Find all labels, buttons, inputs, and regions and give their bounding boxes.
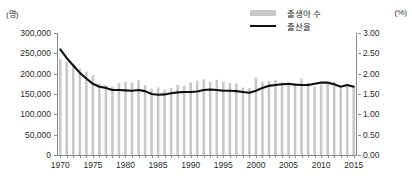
x-axis-tickmark (112, 155, 113, 158)
right-axis-tickmark (358, 135, 361, 136)
bar (118, 83, 121, 155)
x-axis-tickmark (99, 155, 100, 158)
x-axis-tickmark (328, 155, 329, 158)
x-axis-tickmark (184, 155, 185, 158)
x-axis-tickmark (171, 155, 172, 158)
x-axis-tickmark (302, 155, 303, 158)
x-axis-tickmark (165, 155, 166, 158)
x-axis-tickmark (145, 155, 146, 158)
bar (352, 86, 355, 155)
bar (170, 88, 173, 155)
bar (242, 87, 245, 155)
right-axis-tickmark (358, 94, 361, 95)
x-axis-tickmark (223, 155, 224, 158)
x-axis-tickmark (249, 155, 250, 158)
right-axis-tickmark (358, 155, 361, 156)
bar (300, 79, 303, 155)
x-axis-tickmark (152, 155, 153, 158)
line-series-fertility-rate (60, 49, 353, 95)
x-axis-tickmark (341, 155, 342, 158)
legend-item-fertility-rate: 출산율 (250, 19, 370, 32)
x-axis-tickmark (80, 155, 81, 158)
bar (294, 83, 297, 155)
x-axis-tickmark (191, 155, 192, 158)
bar (287, 85, 290, 155)
left-axis-tick: 100,000 (20, 109, 51, 119)
right-axis-tick: 0.00 (363, 150, 380, 160)
right-axis-tickmark (358, 33, 361, 34)
chart-container: (명) (%) 출생아 수 출산율 300,000250,000200,0001… (0, 0, 412, 190)
bar (222, 82, 225, 155)
left-axis-tick: 200,000 (20, 69, 51, 79)
bar (85, 72, 88, 155)
plot-svg (57, 33, 357, 155)
legend-label-fertility-rate: 출산율 (287, 20, 311, 32)
x-axis-tickmark (230, 155, 231, 158)
x-axis-tickmark (236, 155, 237, 158)
left-axis-tick: 150,000 (20, 89, 51, 99)
legend-line-swatch-icon (250, 25, 276, 27)
x-axis-tickmark (178, 155, 179, 158)
x-axis-tickmark (210, 155, 211, 158)
bar (209, 82, 212, 155)
bar (248, 88, 251, 155)
left-axis-tick: 50,000 (25, 130, 51, 140)
bar (333, 82, 336, 155)
bar (137, 80, 140, 155)
bar (183, 86, 186, 155)
right-axis-tick: 1.50 (363, 89, 380, 99)
x-axis-tickmark (354, 155, 355, 158)
bar (157, 87, 160, 155)
chart-legend: 출생아 수 출산율 (250, 6, 370, 32)
bar (268, 81, 271, 155)
x-axis-tickmark (73, 155, 74, 158)
x-axis-tickmark (334, 155, 335, 158)
bar (339, 88, 342, 155)
x-axis-tick: 1975 (83, 160, 102, 170)
x-axis-tickmark (275, 155, 276, 158)
bar (235, 83, 238, 155)
x-axis-tickmark (197, 155, 198, 158)
right-axis-tick: 0.50 (363, 130, 380, 140)
bar (79, 69, 82, 155)
bar (281, 82, 284, 155)
x-axis-tickmark (158, 155, 159, 158)
x-axis-line (57, 155, 357, 156)
x-axis-tickmark (256, 155, 257, 158)
bar (59, 59, 62, 155)
right-axis-tick: 1.00 (363, 109, 380, 119)
x-axis-tickmark (289, 155, 290, 158)
bar (131, 83, 134, 155)
left-axis-tick: 300,000 (20, 28, 51, 38)
right-axis-tickmark (358, 53, 361, 54)
x-axis-tickmark (67, 155, 68, 158)
bar (261, 82, 264, 155)
x-axis-tickmark (60, 155, 61, 158)
x-axis-tick: 1980 (116, 160, 135, 170)
bar-series-births (59, 59, 355, 155)
bar (92, 75, 95, 155)
bar (189, 83, 192, 155)
right-axis-tickmark (358, 74, 361, 75)
bar (346, 87, 349, 155)
bar (163, 90, 166, 155)
x-axis-tick: 1995 (214, 160, 233, 170)
x-axis-tick: 2000 (246, 160, 265, 170)
legend-label-births: 출생아 수 (287, 7, 321, 19)
bar (307, 83, 310, 155)
bar (176, 85, 179, 155)
bar (98, 83, 101, 155)
right-axis-tick: 3.00 (363, 28, 380, 38)
x-axis-tickmark (217, 155, 218, 158)
bar (65, 62, 68, 155)
bar (326, 83, 329, 155)
x-axis-tickmark (269, 155, 270, 158)
x-axis-tickmark (321, 155, 322, 158)
bar (320, 85, 323, 155)
bar (144, 85, 147, 155)
bar (105, 85, 108, 155)
x-axis-tick: 2005 (279, 160, 298, 170)
bar (229, 83, 232, 155)
x-axis-tickmark (119, 155, 120, 158)
bar (124, 82, 127, 155)
